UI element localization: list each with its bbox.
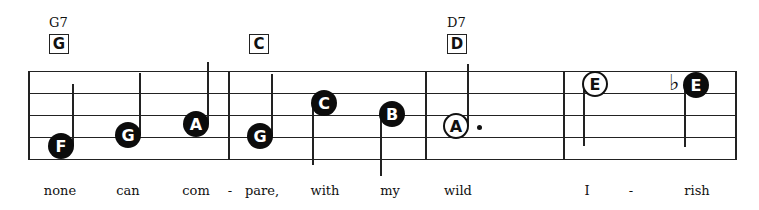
chord-box: C [249, 34, 269, 54]
note-a: A [183, 111, 209, 137]
note-b: B [379, 101, 405, 127]
barline [735, 71, 737, 160]
lyric-syllable: none [44, 183, 76, 198]
barline [228, 71, 230, 160]
note-stem [467, 64, 469, 126]
note-a: A [443, 113, 469, 139]
lyric-syllable: I [584, 183, 589, 198]
note-g: G [247, 123, 273, 149]
note-e: E [683, 72, 709, 98]
barline [425, 71, 427, 160]
lyric-syllable: my [380, 183, 400, 198]
lyric-syllable: com [182, 183, 209, 198]
chord-box: D [447, 34, 467, 54]
note-stem [72, 84, 74, 146]
note-stem [207, 62, 209, 124]
staff-line [28, 159, 735, 160]
barline [28, 71, 30, 160]
note-g: G [115, 122, 141, 148]
note-stem [684, 85, 686, 147]
note-f: F [48, 133, 74, 159]
note-stem [271, 74, 273, 136]
staff-line [28, 71, 735, 72]
chord-name: G7 [49, 15, 68, 30]
barline [563, 71, 565, 160]
note-stem [380, 114, 382, 176]
lyric-syllable: rish [684, 183, 709, 198]
lyric-syllable: can [116, 183, 139, 198]
dot-icon [477, 125, 482, 130]
lyric-syllable: pare, [245, 183, 279, 198]
lyric-syllable: with [311, 183, 340, 198]
lyric-syllable: - [228, 183, 232, 198]
note-stem [312, 103, 314, 165]
note-stem [583, 84, 585, 146]
chord-name: D7 [447, 15, 466, 30]
lyric-syllable: wild [444, 183, 472, 198]
note-c: C [311, 90, 337, 116]
note-e: E [582, 71, 608, 97]
note-stem [139, 73, 141, 135]
staff-line [28, 93, 735, 94]
flat-icon: ♭ [669, 72, 679, 94]
chord-box: G [49, 34, 69, 54]
lyric-syllable: - [629, 183, 633, 198]
